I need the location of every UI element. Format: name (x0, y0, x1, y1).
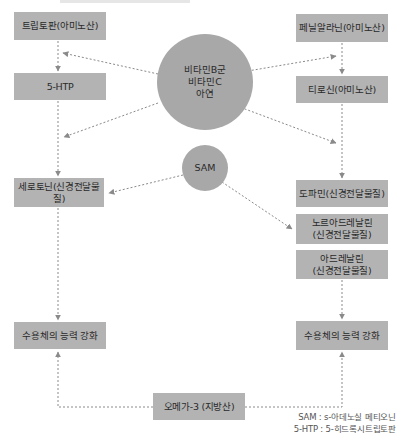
serotonin-label: 세로토닌(신경전달물질) (14, 181, 104, 205)
dopamine-box: 도파민(신경전달물질) (296, 180, 388, 207)
tryptophan-box: 트립토판(아미노산) (14, 12, 106, 40)
adrenaline-label-line2: (신경전달물질) (312, 265, 371, 277)
phenylalanine-box: 페닐알라닌(아미노산) (296, 14, 388, 42)
arrow-sam-to-noradrenaline (222, 182, 292, 229)
cofactor-line2: 비타민C (188, 76, 222, 88)
dopamine-label: 도파민(신경전달물질) (299, 188, 384, 200)
noradrenaline-label-line1: 노르아드레날린 (312, 217, 373, 229)
legend-sam: SAM : s-아데노실 메티오닌 (294, 411, 396, 423)
arrow-sam-to-serotonin (109, 175, 183, 193)
tyrosine-box: 티로신(아미노산) (296, 76, 388, 103)
arrow-cofactor-to-tyrosine-step (237, 106, 336, 143)
arrow-cofactor-to-tryptophan-step (63, 53, 158, 74)
legend: SAM : s-아데노실 메티오닌 5-HTP : 5-히드록시트립토판 (294, 411, 396, 435)
right-receptor-label: 수용체의 능력 강화 (304, 330, 379, 342)
sam-circle: SAM (182, 145, 228, 191)
sam-label: SAM (195, 162, 216, 174)
legend-htp: 5-HTP : 5-히드록시트립토판 (294, 423, 396, 435)
htp-box: 5-HTP (14, 73, 106, 100)
adrenaline-box: 아드레날린 (신경전달물질) (296, 250, 388, 279)
tyrosine-label: 티로신(아미노산) (308, 84, 376, 96)
serotonin-box: 세로토닌(신경전달물질) (14, 178, 104, 207)
arrow-omega-to-left-receptor (58, 352, 153, 407)
noradrenaline-label-line2: (신경전달물질) (312, 229, 371, 241)
cofactor-circle: 비타민B군 비타민C 아연 (157, 34, 253, 130)
left-receptor-box: 수용체의 능력 강화 (14, 322, 106, 349)
arrow-omega-to-right-receptor (245, 352, 342, 407)
arrow-cofactor-to-htp-step (64, 103, 158, 137)
omega3-box: 오메가-3 (지방산) (153, 393, 245, 420)
omega3-label: 오메가-3 (지방산) (164, 401, 235, 413)
left-receptor-label: 수용체의 능력 강화 (22, 330, 97, 342)
right-receptor-box: 수용체의 능력 강화 (296, 321, 388, 350)
phenylalanine-label: 페닐알라닌(아미노산) (299, 22, 384, 34)
htp-label: 5-HTP (47, 81, 74, 93)
tryptophan-label: 트립토판(아미노산) (22, 20, 98, 32)
cofactor-line3: 아연 (196, 88, 214, 100)
adrenaline-label-line1: 아드레날린 (320, 253, 364, 265)
noradrenaline-box: 노르아드레날린 (신경전달물질) (296, 214, 388, 244)
cofactor-line1: 비타민B군 (184, 64, 227, 76)
